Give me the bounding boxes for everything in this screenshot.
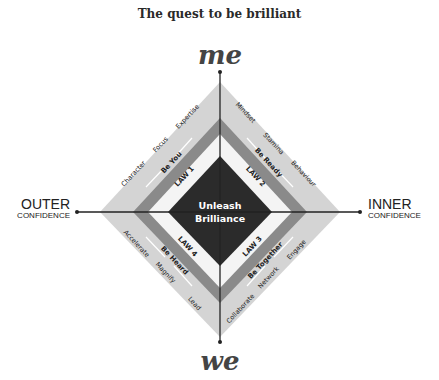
axis-dot-top [218, 70, 222, 74]
inner-label-sub: CONFIDENCE [368, 211, 438, 221]
outer-confidence-label: OUTER CONFIDENCE [0, 197, 70, 221]
outer-label-sub: CONFIDENCE [0, 211, 70, 221]
axis-dot-right [358, 210, 362, 214]
inner-label-main: INNER [368, 197, 438, 211]
outer-label-main: OUTER [0, 197, 70, 211]
brilliance-diamond-diagram: me we Unleash Brilliance LAW 1 Be You Ch… [0, 0, 439, 380]
inner-confidence-label: INNER CONFIDENCE [368, 197, 438, 221]
we-label: we [201, 346, 240, 376]
axis-dot-bottom [218, 340, 222, 344]
center-line2: Brilliance [195, 213, 245, 224]
center-line1: Unleash [198, 200, 241, 211]
me-label: me [198, 40, 242, 70]
axis-dot-left [75, 210, 79, 214]
